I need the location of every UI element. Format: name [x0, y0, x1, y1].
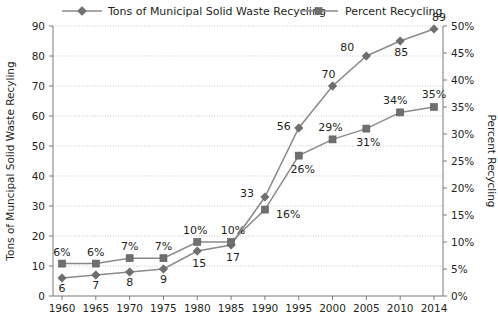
data-label: 35% [422, 88, 446, 101]
data-label: 6 [59, 282, 66, 295]
series-percent [59, 104, 438, 268]
data-point-square [126, 255, 133, 262]
data-point-square [59, 260, 66, 267]
series-tons [58, 25, 438, 282]
data-label: 34% [383, 94, 407, 107]
data-label: 10% [183, 224, 207, 237]
diamond-icon [78, 7, 87, 16]
x-tick-label: 1985 [218, 302, 245, 314]
x-tick-label: 1970 [116, 302, 143, 314]
right-axis-title: Percent Recycling [486, 114, 498, 207]
data-point-square [363, 125, 370, 132]
data-point-diamond [92, 271, 100, 279]
x-tick-label: 1960 [49, 302, 76, 314]
chart-svg: Tons of Municipal Solid Waste Recycling … [0, 0, 498, 324]
right-tick-label: 30% [451, 128, 474, 140]
legend-item-tons: Tons of Municipal Solid Waste Recycling [62, 5, 326, 18]
data-point-diamond [125, 268, 133, 276]
right-tick-label: 25% [451, 155, 474, 167]
x-axis-ticks: 1960196519701975198019851990199520002005… [49, 296, 448, 314]
legend-label-percent: Percent Recycling [345, 5, 442, 18]
data-label: 85 [394, 46, 408, 59]
right-axis-ticks: 0%5%10%15%20%25%30%35%40%45%50% [443, 20, 474, 302]
gridlines [53, 26, 443, 266]
x-tick-label: 1995 [285, 302, 312, 314]
right-tick-label: 0% [451, 290, 468, 302]
data-label-layer: 678915173356708085896%6%7%7%10%10%16%26%… [53, 11, 446, 295]
data-label: 56 [277, 120, 291, 133]
left-tick-label: 80 [32, 50, 45, 62]
left-tick-label: 60 [32, 110, 45, 122]
chart-legend: Tons of Municipal Solid Waste Recycling … [62, 5, 442, 18]
data-label: 7 [92, 279, 99, 292]
right-tick-label: 50% [451, 20, 474, 32]
series-line [62, 29, 434, 278]
x-tick-label: 2014 [421, 302, 448, 314]
data-point-diamond [193, 247, 201, 255]
left-tick-label: 40 [32, 170, 45, 182]
data-label: 15 [192, 257, 206, 270]
recycling-chart: Tons of Municipal Solid Waste Recycling … [0, 0, 498, 324]
data-point-square [261, 206, 268, 213]
left-axis-title: Tons of Muncipal Solid Waste Recyling [4, 61, 16, 261]
right-tick-label: 35% [451, 101, 474, 113]
data-label: 29% [318, 121, 342, 134]
x-tick-label: 2005 [353, 302, 380, 314]
left-axis-ticks: 0102030405060708090 [32, 20, 53, 302]
x-tick-label: 1975 [150, 302, 177, 314]
data-point-diamond [396, 37, 404, 45]
data-label: 6% [87, 246, 104, 259]
data-label: 7% [121, 240, 138, 253]
data-label: 8 [126, 276, 133, 289]
series-layer [58, 25, 438, 282]
x-tick-label: 1990 [252, 302, 279, 314]
data-label: 16% [276, 208, 300, 221]
left-tick-label: 90 [32, 20, 45, 32]
data-point-square [431, 104, 438, 111]
data-point-square [92, 260, 99, 267]
left-tick-label: 20 [32, 230, 45, 242]
legend-label-tons: Tons of Municipal Solid Waste Recycling [107, 5, 326, 18]
data-label: 31% [356, 136, 380, 149]
data-point-square [329, 136, 336, 143]
x-tick-label: 1965 [82, 302, 109, 314]
data-label: 80 [340, 41, 354, 54]
data-label: 70 [322, 68, 336, 81]
data-point-diamond [58, 274, 66, 282]
right-tick-label: 20% [451, 182, 474, 194]
data-point-square [295, 152, 302, 159]
right-tick-label: 5% [451, 263, 468, 275]
data-label: 6% [53, 246, 70, 259]
data-label: 89 [432, 11, 446, 24]
data-label: 7% [155, 240, 172, 253]
data-point-diamond [430, 25, 438, 33]
x-tick-label: 1980 [184, 302, 211, 314]
left-tick-label: 10 [32, 260, 45, 272]
right-tick-label: 10% [451, 236, 474, 248]
data-label: 10% [221, 224, 245, 237]
data-label: 9 [160, 273, 167, 286]
left-tick-label: 70 [32, 80, 45, 92]
x-tick-label: 2000 [319, 302, 346, 314]
data-point-square [228, 239, 235, 246]
left-tick-label: 50 [32, 140, 45, 152]
right-tick-label: 15% [451, 209, 474, 221]
right-tick-label: 45% [451, 47, 474, 59]
x-tick-label: 2010 [387, 302, 414, 314]
data-label: 33 [240, 187, 254, 200]
data-point-square [160, 255, 167, 262]
left-tick-label: 0 [38, 290, 45, 302]
data-label: 17 [226, 251, 240, 264]
square-icon [315, 8, 322, 15]
data-point-square [397, 109, 404, 116]
data-label: 26% [291, 163, 315, 176]
left-tick-label: 30 [32, 200, 45, 212]
right-tick-label: 40% [451, 74, 474, 86]
series-line [62, 107, 434, 264]
data-point-square [194, 239, 201, 246]
